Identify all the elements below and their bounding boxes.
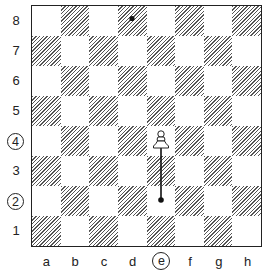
- square-a5: [32, 96, 61, 126]
- square-b4: [61, 126, 90, 156]
- rank-label-5: 5: [7, 102, 25, 120]
- square-h2: [232, 186, 261, 216]
- square-g2: [204, 186, 233, 216]
- file-label-f: f: [181, 253, 199, 270]
- square-f6: [175, 66, 204, 96]
- square-f4: [175, 126, 204, 156]
- file-label-d: d: [124, 253, 142, 270]
- square-a8: [32, 6, 61, 36]
- square-f5: [175, 96, 204, 126]
- square-g7: [204, 36, 233, 66]
- square-g6: [204, 66, 233, 96]
- square-c8: [89, 6, 118, 36]
- square-d4: [118, 126, 147, 156]
- file-label-c: c: [95, 253, 113, 270]
- rank-label-8: 8: [7, 12, 25, 30]
- square-h3: [232, 156, 261, 186]
- rank-label-6: 6: [7, 72, 25, 90]
- square-e5: [147, 96, 176, 126]
- square-c2: [89, 186, 118, 216]
- square-h4: [232, 126, 261, 156]
- file-label-e: e: [152, 252, 170, 270]
- square-e6: [147, 66, 176, 96]
- rank-label-7: 7: [7, 42, 25, 60]
- file-label-b: b: [66, 253, 84, 270]
- square-b6: [61, 66, 90, 96]
- square-a6: [32, 66, 61, 96]
- square-e7: [147, 36, 176, 66]
- square-e2: [147, 186, 176, 216]
- square-d8: [118, 6, 147, 36]
- square-d1: [118, 216, 147, 246]
- square-c6: [89, 66, 118, 96]
- square-b2: [61, 186, 90, 216]
- square-g1: [204, 216, 233, 246]
- square-c5: [89, 96, 118, 126]
- square-f7: [175, 36, 204, 66]
- file-label-g: g: [210, 253, 228, 270]
- square-b5: [61, 96, 90, 126]
- square-h8: [232, 6, 261, 36]
- square-d3: [118, 156, 147, 186]
- square-e8: [147, 6, 176, 36]
- file-label-a: a: [37, 253, 55, 270]
- square-d6: [118, 66, 147, 96]
- square-b8: [61, 6, 90, 36]
- square-a1: [32, 216, 61, 246]
- square-f2: [175, 186, 204, 216]
- square-e4: [147, 126, 176, 156]
- square-h1: [232, 216, 261, 246]
- square-a7: [32, 36, 61, 66]
- file-label-h: h: [239, 253, 257, 270]
- square-c3: [89, 156, 118, 186]
- square-e1: [147, 216, 176, 246]
- square-f8: [175, 6, 204, 36]
- rank-label-2: 2: [7, 193, 24, 210]
- square-h5: [232, 96, 261, 126]
- square-b1: [61, 216, 90, 246]
- rank-label-4: 4: [7, 133, 24, 150]
- square-a3: [32, 156, 61, 186]
- square-d2: [118, 186, 147, 216]
- square-b3: [61, 156, 90, 186]
- square-g8: [204, 6, 233, 36]
- chess-board: [31, 5, 262, 247]
- rank-label-3: 3: [7, 162, 25, 180]
- square-h7: [232, 36, 261, 66]
- square-d5: [118, 96, 147, 126]
- square-f3: [175, 156, 204, 186]
- square-f1: [175, 216, 204, 246]
- square-c7: [89, 36, 118, 66]
- square-a2: [32, 186, 61, 216]
- square-g3: [204, 156, 233, 186]
- square-c4: [89, 126, 118, 156]
- square-e3: [147, 156, 176, 186]
- square-c1: [89, 216, 118, 246]
- rank-label-1: 1: [7, 222, 25, 240]
- square-a4: [32, 126, 61, 156]
- square-h6: [232, 66, 261, 96]
- square-d7: [118, 36, 147, 66]
- square-g5: [204, 96, 233, 126]
- square-g4: [204, 126, 233, 156]
- square-b7: [61, 36, 90, 66]
